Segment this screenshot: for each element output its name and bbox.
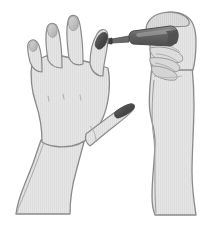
right-forearm <box>149 66 196 215</box>
nail-polish-illustration <box>0 0 224 232</box>
illustration-canvas: Applying nail polish Grayscale line illu… <box>0 0 224 232</box>
left-ring-nail <box>48 24 58 37</box>
left-pinky-nail <box>30 41 38 52</box>
left-middle-nail <box>69 17 79 31</box>
